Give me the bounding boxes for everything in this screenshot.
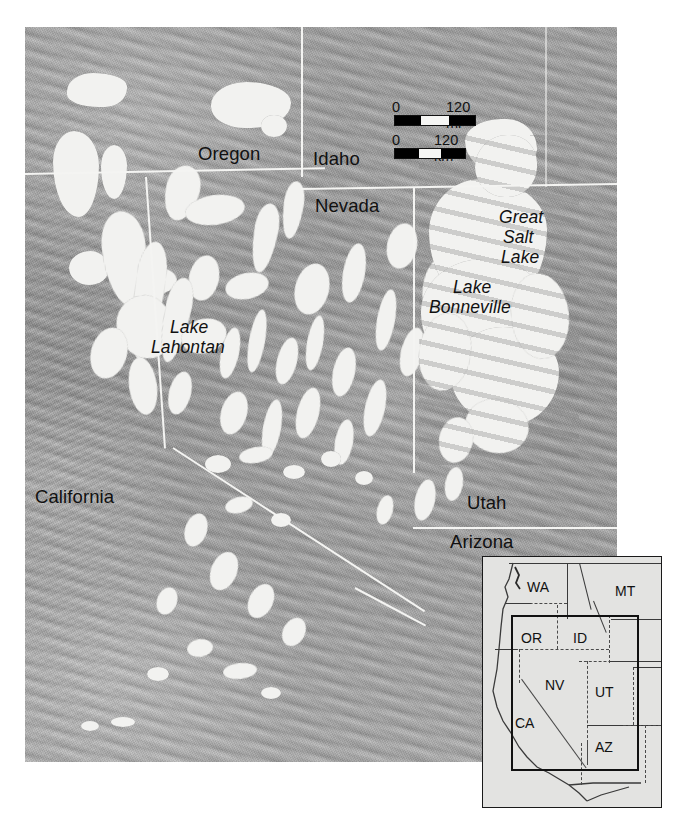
lake-patch xyxy=(147,667,169,681)
inset-border-wa-id xyxy=(567,563,568,605)
lake-patch xyxy=(355,471,373,485)
label-great-salt-lake-line-1: Great xyxy=(499,207,543,228)
km-scale-bar-graphic xyxy=(395,149,465,158)
label-lake-bonneville-line-2: Bonneville xyxy=(429,297,511,318)
border-utah-arizona xyxy=(413,527,617,529)
border-utah-interior xyxy=(545,27,547,187)
label-idaho: Idaho xyxy=(313,148,360,170)
label-lake-bonneville-line-1: Lake xyxy=(453,277,491,298)
border-nevada-utah xyxy=(413,187,415,473)
label-great-salt-lake-line-3: Lake xyxy=(501,247,539,268)
lake-patch xyxy=(261,687,281,699)
kilometers-scale-bar: 0 120 km xyxy=(370,132,475,159)
lake-patch xyxy=(261,115,287,137)
miles-scale-zero-label: 0 xyxy=(392,99,400,115)
lake-patch xyxy=(67,73,127,107)
inset-border-east-interior-2 xyxy=(645,725,646,783)
lake-patch xyxy=(321,451,341,467)
label-great-salt-lake-line-2: Salt xyxy=(503,227,534,248)
scale-bars: 0 120 mi 0 120 km xyxy=(370,99,475,159)
inset-label-mt: MT xyxy=(615,583,635,599)
label-california: California xyxy=(35,486,114,508)
inset-extent-box xyxy=(511,615,639,771)
lake-patch xyxy=(81,721,99,731)
label-utah: Utah xyxy=(467,492,506,514)
km-scale-zero-label: 0 xyxy=(392,132,400,148)
inset-border-wa-or-solid xyxy=(505,603,531,604)
miles-scale-bar: 0 120 mi xyxy=(370,99,475,126)
label-oregon: Oregon xyxy=(198,143,260,165)
locator-inset-map: WA MT OR ID NV UT CA AZ xyxy=(482,556,662,808)
inset-northern-border xyxy=(509,563,661,564)
label-lake-lahontan-line-2: Lahontan xyxy=(151,337,225,358)
km-scale-max-label: 120 km xyxy=(434,132,475,164)
lake-patch xyxy=(111,717,135,727)
miles-scale-max-label: 120 mi xyxy=(446,99,475,131)
border-oregon-idaho xyxy=(301,27,303,177)
label-nevada: Nevada xyxy=(315,195,379,217)
inset-label-wa: WA xyxy=(527,579,549,595)
label-lake-lahontan-line-1: Lake xyxy=(170,317,208,338)
label-arizona: Arizona xyxy=(450,531,513,553)
lake-patch xyxy=(283,465,305,479)
miles-scale-bar-graphic xyxy=(395,116,475,125)
